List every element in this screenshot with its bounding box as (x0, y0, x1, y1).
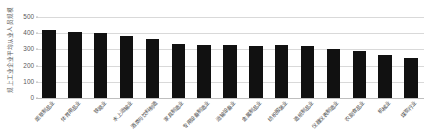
x-axis-tick-label: 酒类与饮料制造 (131, 101, 159, 129)
x-axis-tick-label: 造纸制品业 (293, 101, 314, 122)
x-axis-tick-label: 运输设备业 (215, 101, 236, 122)
bar[interactable] (301, 46, 314, 98)
bar[interactable] (327, 49, 340, 98)
y-axis-tick-label: 0 (30, 95, 34, 101)
y-axis-tick-label: 300 (23, 46, 34, 52)
bar[interactable] (378, 55, 391, 98)
bar[interactable] (404, 58, 417, 98)
y-axis-tick-mark (36, 33, 38, 34)
bar[interactable] (42, 30, 55, 98)
x-axis-tick-label: 水上运输业 (112, 101, 133, 122)
x-axis-tick-label: 家具制造业 (164, 101, 185, 122)
bar[interactable] (172, 44, 185, 98)
bar[interactable] (275, 45, 288, 98)
y-axis-title-text: 规上工业企业平均从业人员规模 (8, 7, 14, 92)
bars-layer (36, 17, 424, 98)
x-axis-tick-label: 农副食品业 (345, 101, 366, 122)
y-axis-tick-labels: 0100200300400500 (14, 17, 34, 98)
x-axis-tick-label: 纺织服装业 (267, 101, 288, 122)
y-axis-tick-label: 400 (23, 30, 34, 36)
bar[interactable] (68, 32, 81, 98)
y-axis-tick-mark (36, 98, 38, 99)
bar[interactable] (353, 51, 366, 98)
x-axis-tick-label: 体育用品业 (60, 101, 81, 122)
bar[interactable] (249, 46, 262, 98)
x-axis-tick-label: 仪器仪表制造业 (312, 101, 340, 129)
x-axis-tick-label: 铁路业 (93, 101, 107, 115)
y-axis-tick-mark (36, 17, 38, 18)
bar-chart: 规上工业企业平均从业人员规模 0100200300400500 烟草制品业体育用… (0, 0, 430, 133)
y-axis-tick-mark (36, 81, 38, 82)
bar[interactable] (197, 45, 210, 98)
y-axis-tick-label: 500 (23, 14, 34, 20)
x-axis-tick-label: 烟草制品业 (34, 101, 55, 122)
bar[interactable] (94, 33, 107, 98)
x-axis-tick-label: 煤炭行业 (400, 101, 418, 119)
y-axis-tick-label: 200 (23, 62, 34, 68)
x-axis-tick-labels: 烟草制品业体育用品业铁路业水上运输业酒类与饮料制造家具制造业专用设备制造业运输设… (36, 99, 424, 133)
y-axis-tick-label: 100 (23, 79, 34, 85)
x-axis-tick-label: 专用设备制造业 (182, 101, 210, 129)
bar[interactable] (120, 36, 133, 98)
bar[interactable] (223, 45, 236, 98)
y-axis-tick-mark (36, 49, 38, 50)
x-axis-tick-label: 金属制品业 (241, 101, 262, 122)
x-axis-tick-label: 机械业 (378, 101, 392, 115)
y-axis-tick-mark (36, 65, 38, 66)
bar[interactable] (146, 39, 159, 98)
